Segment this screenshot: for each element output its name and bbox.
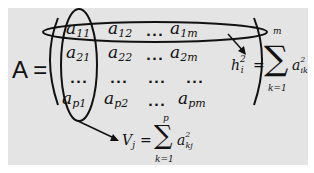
col-formula-equals: = (140, 133, 152, 147)
row-formula-term: a2ik (292, 58, 313, 72)
cell-dots: ... (146, 25, 164, 38)
cell-a1m: a1m (170, 20, 198, 39)
col-formula-term: a2kj (177, 133, 198, 147)
row-formula-equals: = (253, 58, 265, 72)
cell-dots: ... (110, 72, 128, 85)
cell-ap1: ap1 (62, 90, 86, 109)
cell-dots: ... (148, 95, 166, 108)
cell-apm: apm (178, 90, 206, 109)
col-formula-lower: k=1 (155, 155, 174, 164)
cell-a2m: a2m (170, 44, 198, 63)
matrix-equals: = (33, 56, 47, 83)
left-bracket (50, 18, 58, 105)
sum-icon: ∑ (154, 122, 173, 148)
sum-icon: ∑ (264, 41, 288, 75)
cell-ap2: ap2 (104, 90, 128, 109)
cell-a21: a21 (66, 44, 90, 63)
cell-dots: ... (70, 72, 88, 85)
cell-dots: ... (146, 49, 164, 62)
row-formula-lower: k=1 (268, 84, 287, 93)
cell-a11: a11 (66, 20, 90, 39)
cell-dots: ... (186, 72, 204, 85)
row-formula-upper: m (273, 27, 282, 36)
matrix-label: A = (12, 58, 47, 82)
column-arrow (78, 121, 114, 138)
matrix-name: A (12, 56, 27, 83)
row-formula-lhs: h2i (231, 58, 249, 72)
cell-dots: ... (148, 72, 166, 85)
cell-a12: a12 (108, 20, 132, 39)
col-formula-lhs: Vj (122, 133, 135, 147)
cell-a22: a22 (108, 44, 132, 63)
